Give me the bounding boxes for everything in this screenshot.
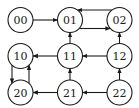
node-label: 20 — [14, 87, 28, 100]
state-diagram: 000102101112202122 — [0, 0, 139, 108]
node-label: 02 — [113, 14, 127, 27]
nodes: 000102101112202122 — [8, 8, 132, 106]
node-00: 00 — [8, 8, 33, 33]
node-label: 01 — [63, 14, 77, 27]
node-11: 11 — [58, 44, 83, 69]
node-02: 02 — [107, 8, 132, 33]
node-21: 21 — [58, 80, 83, 105]
node-22: 22 — [107, 80, 132, 105]
node-label: 11 — [63, 50, 77, 63]
node-label: 22 — [113, 87, 127, 100]
node-label: 21 — [63, 87, 77, 100]
node-label: 00 — [14, 14, 28, 27]
node-01: 01 — [58, 8, 83, 33]
node-label: 12 — [113, 50, 127, 63]
node-10: 10 — [8, 44, 33, 69]
node-12: 12 — [107, 44, 132, 69]
node-20: 20 — [8, 80, 33, 105]
node-label: 10 — [14, 50, 28, 63]
